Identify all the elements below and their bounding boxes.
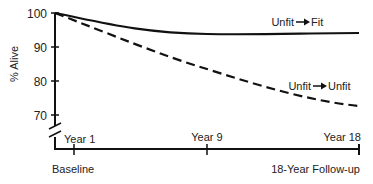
- y-tick-label: 100: [27, 7, 47, 21]
- x-tick-label: Year 1: [64, 133, 95, 145]
- x-label-followup: 18-Year Follow-up: [271, 163, 360, 175]
- y-tick-label: 70: [34, 109, 48, 123]
- arrow-right-icon: [304, 19, 310, 26]
- y-tick-label: 90: [34, 41, 48, 55]
- label-unfit-unfit: Unfit Unfit: [288, 80, 350, 92]
- x-tick-label: Year 9: [191, 131, 222, 143]
- label-unfit-fit-from: Unfit: [271, 16, 294, 28]
- x-tick-label: Year 18: [323, 131, 361, 143]
- survival-chart: 100 90 80 70 % Alive Year 1 Year 9 Year …: [0, 0, 373, 184]
- label-unfit-unfit-from: Unfit: [288, 80, 311, 92]
- arrow-right-icon: [321, 83, 327, 90]
- label-unfit-fit: Unfit Fit: [271, 16, 323, 28]
- axis-break-mark: [49, 131, 61, 137]
- x-label-baseline: Baseline: [52, 163, 94, 175]
- y-axis-label: % Alive: [8, 46, 20, 82]
- y-tick-label: 80: [34, 75, 48, 89]
- label-unfit-fit-to: Fit: [311, 16, 323, 28]
- label-unfit-unfit-to: Unfit: [328, 80, 351, 92]
